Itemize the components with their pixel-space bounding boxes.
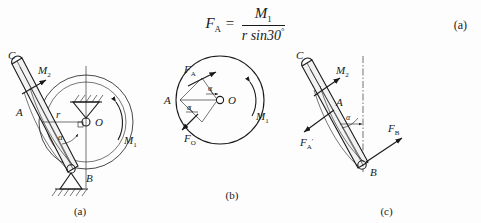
- figure-a-drawing: C A B O r α M1 M2: [0, 48, 160, 208]
- pin-o: [216, 96, 223, 103]
- figure-c: C A B FA′ FB M2 α (c): [292, 48, 481, 223]
- moment-arrow-m1: [116, 102, 122, 140]
- equation-equals: =: [225, 15, 235, 31]
- label-m2: M2: [37, 64, 51, 79]
- label-angle-upper: α: [208, 84, 213, 93]
- support-b: [52, 173, 88, 196]
- figure-a-caption: (a): [0, 205, 160, 217]
- label-a: A: [335, 96, 343, 108]
- equation-lhs-subscript: A: [215, 24, 222, 34]
- label-c: C: [8, 49, 16, 61]
- figure-b-drawing: A O FA FO M1 α α: [158, 48, 306, 198]
- label-m2: M2: [335, 64, 349, 79]
- label-c: C: [296, 49, 304, 61]
- figure-page: FA = M1 r sin30° (a): [0, 0, 481, 223]
- figure-b-caption: (b): [158, 189, 306, 201]
- label-angle-alpha: α: [58, 132, 63, 142]
- label-o: O: [95, 116, 103, 128]
- force-arrow-fb: [366, 138, 402, 162]
- equation-numerator: M1: [242, 6, 285, 26]
- equation-number: (a): [454, 18, 467, 33]
- label-fa-prime: FA′: [299, 136, 314, 151]
- label-b: B: [370, 166, 377, 178]
- force-arrow-fo: [182, 114, 198, 130]
- figure-b: A O FA FO M1 α α (b): [158, 48, 306, 223]
- label-fb: FB: [387, 122, 400, 137]
- figure-c-drawing: C A B FA′ FB M2 α: [292, 48, 481, 208]
- figure-c-caption: (c): [292, 205, 481, 217]
- construction-line-upper: [180, 78, 202, 100]
- label-a: A: [163, 94, 171, 106]
- label-a: A: [15, 106, 23, 118]
- label-fo: FO: [183, 132, 196, 147]
- lever-bar: [302, 58, 368, 168]
- construction-line-b: [202, 102, 216, 122]
- label-o: O: [228, 94, 236, 106]
- force-arrow-fa-prime: [304, 110, 334, 132]
- label-b: B: [86, 172, 93, 184]
- equation-denominator: r sin30°: [242, 26, 285, 43]
- equation-block: FA = M1 r sin30° (a): [0, 6, 481, 46]
- equation-fraction: M1 r sin30°: [242, 6, 285, 43]
- label-radius: r: [56, 108, 61, 120]
- figure-a: C A B O r α M1 M2 (a): [0, 48, 160, 223]
- label-angle-alpha: α: [346, 113, 351, 122]
- equation-lhs: F: [205, 15, 214, 31]
- equation-formula: FA = M1 r sin30°: [150, 6, 340, 43]
- label-m1: M1: [123, 134, 137, 149]
